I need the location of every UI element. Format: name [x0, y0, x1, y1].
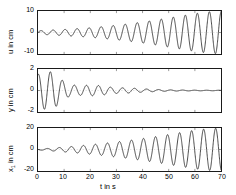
panel-y-ytick-top: 2 — [14, 64, 34, 71]
panel-u-ytick-top: 10 — [14, 6, 34, 13]
panel-y-ytick-bottom: -2 — [14, 106, 34, 113]
panel-y-axes — [37, 68, 222, 113]
panel-x1-ytick-top: 20 — [14, 123, 34, 130]
panel-u-gridlines — [38, 11, 221, 54]
xaxis-label: t in s — [100, 182, 116, 191]
xtick-60: 60 — [188, 173, 202, 180]
panel-u-ytick-bottom: -10 — [14, 47, 34, 54]
figure-canvas: u in cm 10 0 -10 — [0, 0, 236, 195]
panel-x1-plot — [38, 128, 221, 171]
xtick-40: 40 — [136, 173, 150, 180]
xtick-50: 50 — [162, 173, 176, 180]
panel-u-axes — [37, 10, 222, 55]
panel-y-curve — [38, 72, 221, 109]
panel-x1-axes — [37, 127, 222, 172]
panel-y-plot — [38, 69, 221, 112]
panel-y-ytick-mid: 0 — [14, 85, 34, 92]
xtick-20: 20 — [83, 173, 97, 180]
panel-u-ytick-mid: 0 — [14, 27, 34, 34]
xtick-30: 30 — [109, 173, 123, 180]
xtick-10: 10 — [56, 173, 70, 180]
panel-x1-ytick-mid: 0 — [14, 144, 34, 151]
panel-x1-gridlines — [38, 128, 221, 171]
xtick-70: 70 — [215, 173, 229, 180]
panel-u-plot — [38, 11, 221, 54]
panel-x1-ytick-bottom: -20 — [14, 165, 34, 172]
xtick-0: 0 — [30, 173, 44, 180]
